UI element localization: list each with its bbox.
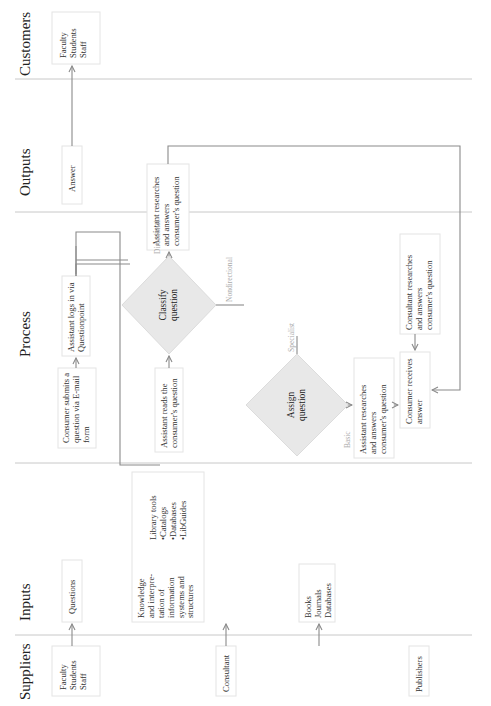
svg-text:Questions: Questions bbox=[67, 579, 77, 614]
svg-text:Publishers: Publishers bbox=[414, 656, 424, 692]
svg-text:Consultant: Consultant bbox=[221, 654, 231, 692]
lane-title-outputs: Outputs bbox=[17, 148, 33, 196]
text-line: question bbox=[297, 389, 307, 421]
supplier-publishers-box: Publishers bbox=[409, 646, 429, 696]
lane-title-suppliers: Suppliers bbox=[17, 643, 33, 700]
text-line: form bbox=[81, 426, 91, 443]
lane-title-inputs: Inputs bbox=[17, 583, 33, 621]
label-basic: Basic bbox=[343, 431, 352, 448]
text-line: Staff bbox=[78, 673, 88, 690]
label-nondirectional: Nondirectional bbox=[225, 257, 234, 302]
text-line: consumer's question bbox=[171, 176, 181, 246]
text-line: Consultant researches bbox=[404, 254, 414, 330]
text-line: structures bbox=[185, 584, 195, 618]
text-line: Publishers bbox=[414, 656, 424, 692]
text-line: consumer's question bbox=[378, 384, 388, 454]
text-line: question via E-mail bbox=[71, 375, 81, 443]
input-questions-box: Questions bbox=[62, 560, 82, 622]
text-line: Assistant reads the bbox=[159, 383, 169, 448]
text-line: consumer's question bbox=[424, 260, 434, 330]
sipoc-diagram: Suppliers Inputs Process Outputs Custome… bbox=[0, 0, 491, 706]
svg-text:Assistant reads theconsumer's: Assistant reads theconsumer's question bbox=[159, 378, 179, 448]
svg-text:Answer: Answer bbox=[67, 165, 77, 192]
text-line: Books bbox=[303, 595, 313, 618]
text-line: and answers bbox=[414, 287, 424, 330]
text-line: Consultant bbox=[221, 654, 231, 692]
process-basic-answer-box: Assistant researchesand answersconsumer'… bbox=[354, 358, 394, 458]
text-line: and answers bbox=[368, 411, 378, 454]
text-line: and answers bbox=[161, 203, 171, 246]
text-line: Classify bbox=[158, 289, 168, 320]
text-line: •Databases bbox=[168, 501, 178, 540]
text-line: Assistant researches bbox=[358, 384, 368, 454]
text-line: answer bbox=[414, 400, 424, 424]
text-line: Questions bbox=[67, 579, 77, 614]
process-read-box: Assistant reads theconsumer's question bbox=[155, 368, 183, 452]
customer-users-box: FacultyStudentsStaff bbox=[52, 12, 100, 64]
text-line: Consumer submits a bbox=[61, 373, 71, 443]
text-line: tation of bbox=[156, 589, 166, 618]
text-line: question bbox=[169, 289, 179, 321]
svg-text:Assignquestion: Assignquestion bbox=[286, 389, 307, 421]
text-line: Faculty bbox=[58, 32, 68, 58]
text-line: Knowledge bbox=[136, 578, 146, 618]
arrow-login-to-read bbox=[76, 264, 130, 276]
text-line: •Catalogs bbox=[158, 506, 168, 540]
supplier-users-box: FacultyStudentsStaff bbox=[52, 646, 100, 696]
text-line: Library tools bbox=[148, 495, 158, 540]
text-line: and interpre- bbox=[146, 574, 156, 618]
text-line: Assign bbox=[286, 392, 296, 419]
text-line: systems and bbox=[176, 576, 186, 618]
lane-title-customers: Customers bbox=[17, 12, 33, 76]
text-line: Faculty bbox=[58, 664, 68, 690]
input-knowledge-box: Knowledgeand interpre-tation ofinformati… bbox=[132, 472, 204, 622]
text-line: Questionpoint bbox=[76, 303, 86, 352]
process-receives-box: Consumer receivesanswer bbox=[400, 352, 430, 428]
text-line: Students bbox=[68, 660, 78, 690]
lane-title-process: Process bbox=[17, 311, 33, 357]
text-line: Students bbox=[68, 28, 78, 58]
text-line: Assistant logs in via bbox=[66, 282, 76, 352]
text-line: Consumer receives bbox=[404, 358, 414, 424]
input-resources-box: BooksJournalsDatabases bbox=[299, 564, 335, 622]
text-line: consumer's question bbox=[169, 378, 179, 448]
label-directional: Directional bbox=[153, 220, 162, 254]
text-line: Staff bbox=[78, 41, 88, 58]
svg-text:Classifyquestion: Classifyquestion bbox=[158, 289, 179, 321]
text-line: •LibGuides bbox=[178, 500, 188, 540]
process-login-box: Assistant logs in viaQuestionpoint bbox=[62, 276, 90, 356]
label-specialist: Specialist bbox=[287, 322, 296, 352]
text-line: Journals bbox=[313, 589, 323, 618]
text-line: Answer bbox=[67, 165, 77, 192]
process-consultant-answer-box: Consultant researchesand answersconsumer… bbox=[400, 234, 440, 334]
text-line: information bbox=[166, 577, 176, 618]
classify-decision: Classifyquestion bbox=[122, 256, 216, 354]
svg-text:Library tools•Catalogs•Databas: Library tools•Catalogs•Databases•LibGuid… bbox=[148, 495, 188, 540]
output-answer-box: Answer bbox=[62, 146, 82, 204]
assign-decision: Assignquestion bbox=[246, 354, 348, 456]
supplier-consultant-box: Consultant bbox=[216, 646, 236, 696]
text-line: Databases bbox=[323, 583, 333, 618]
process-submit-box: Consumer submits aquestion via E-mailfor… bbox=[58, 368, 96, 448]
